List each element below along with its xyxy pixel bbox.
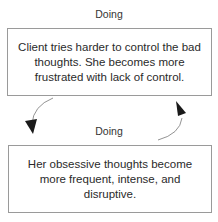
bottom-box-text: Her obsessive thoughts become more frequ… — [15, 157, 205, 202]
middle-doing-label: Doing — [0, 125, 218, 137]
bottom-box: Her obsessive thoughts become more frequ… — [8, 145, 212, 213]
